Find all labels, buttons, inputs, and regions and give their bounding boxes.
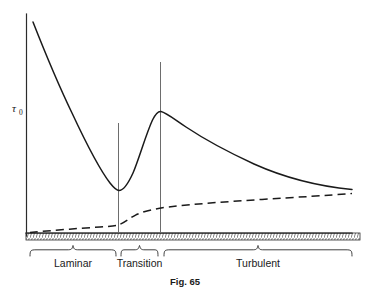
ground-hatch-band: [26, 233, 360, 240]
figure-container: τ 0 Laminar Transition Turbulent Fig. 65: [0, 0, 370, 293]
figure-caption: Fig. 65: [170, 276, 201, 287]
y-axis-label-group: τ 0: [12, 102, 23, 117]
region-label-laminar: Laminar: [54, 257, 92, 269]
bracket-laminar: [30, 246, 116, 257]
y-axis-label: τ: [12, 102, 17, 114]
ground-band-group: [26, 233, 360, 240]
axes-group: [26, 14, 352, 236]
y-axis-label-subscript: 0: [19, 108, 23, 117]
region-dividers-group: [119, 62, 161, 232]
bracket-turbulent: [164, 246, 352, 257]
region-brackets-group: [30, 246, 352, 257]
boundary-layer-thickness-curve: [30, 194, 352, 233]
wall-shear-stress-curve: [33, 22, 352, 191]
figure-svg: τ 0 Laminar Transition Turbulent Fig. 65: [0, 0, 370, 293]
bracket-transition: [121, 246, 158, 257]
region-label-transition: Transition: [117, 257, 163, 269]
region-label-turbulent: Turbulent: [236, 257, 280, 269]
